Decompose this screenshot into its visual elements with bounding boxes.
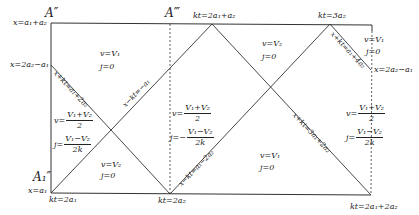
region-left-mid-v: v= V₁+V₂2 [54, 111, 93, 130]
v-numerator: V₁+V₂ [358, 104, 385, 114]
region-center-j: j=− V₁−V₂2k [170, 128, 214, 147]
v-lhs: v= [54, 117, 65, 125]
region-bottom-left-j: j=0 [101, 172, 115, 180]
v-numerator: V₁+V₂ [66, 111, 93, 121]
region-bottom-right-j: j=0 [260, 164, 274, 172]
region-right-mid-j: j= V₁−V₂2k [346, 128, 383, 147]
corner-label-a1-double-prime: A₁″ [33, 171, 51, 183]
region-bottom-right-v: v=V₁ [260, 152, 280, 160]
j-numerator: V₁−V₂ [187, 128, 214, 138]
bottom-label-left: kt=2a₁ [49, 196, 77, 204]
right-label-mid: x=2a₂−a₁ [374, 66, 413, 74]
region-top-right-v: v=V₁ [364, 36, 384, 44]
v-denominator: 2 [369, 114, 374, 123]
left-label-bottom: x=a₁ [28, 187, 47, 195]
region-top-mid-j: j=0 [262, 53, 276, 61]
region-top-mid-v: v=V₂ [262, 40, 282, 48]
v-lhs: v= [172, 110, 183, 118]
region-bottom-left-v: v=V₂ [101, 161, 121, 169]
j-denominator: 2k [73, 145, 83, 154]
corner-label-a-double-prime: A″ [45, 7, 58, 19]
corner-label-a-triple-prime: A‴ [165, 7, 180, 19]
j-denominator: 2k [365, 138, 375, 147]
v-lhs: v= [346, 110, 357, 118]
region-top-left-j: j=0 [100, 63, 114, 71]
bottom-label-mid: kt=2a₂ [158, 197, 186, 205]
left-label-top: x=a₁+a₂ [13, 19, 47, 27]
j-lhs: j= [54, 141, 63, 149]
region-top-right-j: j=0 [366, 48, 380, 56]
j-numerator: V₁−V₂ [356, 128, 383, 138]
j-numerator: V₁−V₂ [64, 135, 91, 145]
v-denominator: 2 [195, 114, 200, 123]
region-left-mid-j: j= V₁−V₂2k [54, 135, 91, 154]
top-label-vertex2: kt=3a₂ [318, 12, 346, 20]
region-center-v: v= V₁+V₂2 [172, 104, 211, 123]
region-right-mid-v: v= V₁+V₂2 [346, 104, 385, 123]
top-label-vertex1: kt=2a₁+a₂ [193, 12, 236, 20]
j-lhs: j=− [170, 134, 186, 142]
j-denominator: 2k [195, 138, 205, 147]
region-top-left-v: v=V₁ [100, 50, 120, 58]
v-numerator: V₁+V₂ [184, 104, 211, 114]
left-label-mid: x=2a₂−a₁ [10, 61, 49, 69]
bottom-boundary [51, 193, 371, 195]
j-lhs: j= [346, 134, 355, 142]
v-denominator: 2 [77, 121, 82, 130]
bottom-label-right: kt=2a₁+2a₂ [350, 203, 398, 211]
